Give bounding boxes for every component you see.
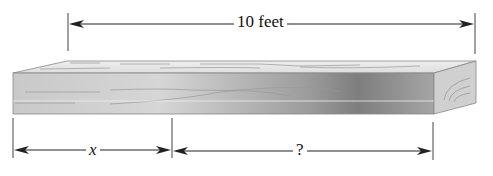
right-segment-label: ? <box>293 141 307 158</box>
segment-dimensions <box>13 118 433 160</box>
board-length-diagram: 10 feet x ? <box>0 0 493 176</box>
total-length-label: 10 feet <box>234 13 287 30</box>
board-front-face <box>13 73 434 114</box>
wooden-board <box>13 61 476 114</box>
left-segment-label: x <box>86 141 100 158</box>
